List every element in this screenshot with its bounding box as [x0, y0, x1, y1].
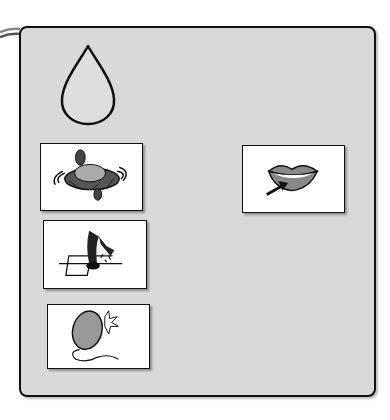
- card-lips[interactable]: lips: [242, 145, 345, 213]
- water-drop-icon: [57, 43, 119, 127]
- hopscotch-icon: [44, 221, 146, 288]
- card-spinning-top[interactable]: spinning top: [40, 143, 143, 211]
- card-hopscotch[interactable]: hopscotch: [43, 220, 147, 289]
- communication-board: spinning top hopscotch balloon pop: [19, 26, 376, 397]
- lips-pointer-icon: [243, 146, 344, 212]
- card-balloon[interactable]: balloon pop: [47, 304, 150, 369]
- spinning-top-icon: [41, 144, 142, 210]
- popping-balloon-icon: [48, 305, 149, 368]
